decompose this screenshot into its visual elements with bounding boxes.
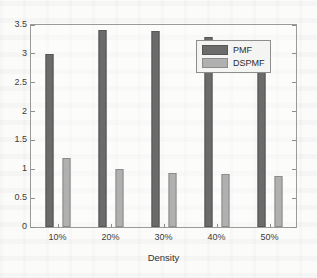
y-tick-label: 1 bbox=[22, 163, 27, 173]
bar-pmf bbox=[151, 31, 159, 227]
bar-pair bbox=[151, 25, 176, 227]
legend-item-dspmf[interactable]: DSPMF bbox=[202, 58, 265, 68]
legend-swatch-dspmf bbox=[202, 58, 228, 68]
bar-pmf bbox=[98, 30, 106, 227]
x-axis-label: Density bbox=[30, 252, 297, 263]
legend-swatch-pmf bbox=[202, 45, 228, 55]
bar-pair bbox=[98, 25, 123, 227]
x-tick-label: 50% bbox=[260, 232, 278, 242]
y-tick-label: 3 bbox=[22, 48, 27, 58]
y-tick-label: 3.5 bbox=[14, 19, 27, 29]
bar-group: 20% bbox=[84, 25, 137, 227]
bar-dspmf bbox=[168, 173, 176, 227]
bar-group: 30% bbox=[137, 25, 190, 227]
x-tick-label: 20% bbox=[101, 232, 119, 242]
y-tick-label: 2.5 bbox=[14, 77, 27, 87]
legend-label-pmf: PMF bbox=[233, 45, 252, 55]
y-tick-label: 0 bbox=[22, 221, 27, 231]
bar-dspmf bbox=[221, 174, 229, 227]
y-tick-label: 0.5 bbox=[14, 192, 27, 202]
x-tick-label: 40% bbox=[207, 232, 225, 242]
x-tick-label: 30% bbox=[154, 232, 172, 242]
legend-label-dspmf: DSPMF bbox=[233, 58, 265, 68]
bar-pair bbox=[45, 25, 70, 227]
bar-dspmf bbox=[62, 158, 70, 227]
y-tick-label: 1.5 bbox=[14, 134, 27, 144]
legend-item-pmf[interactable]: PMF bbox=[202, 45, 265, 55]
bar-group: 10% bbox=[31, 25, 84, 227]
chart-legend: PMFDSPMF bbox=[196, 40, 271, 73]
y-tick-label: 2 bbox=[22, 106, 27, 116]
bar-pmf bbox=[45, 54, 53, 227]
bar-dspmf bbox=[115, 169, 123, 227]
x-tick-label: 10% bbox=[48, 232, 66, 242]
bar-dspmf bbox=[274, 176, 282, 227]
bar-chart-figure: 00.511.522.533.5 10%20%30%40%50% Density… bbox=[0, 0, 317, 278]
